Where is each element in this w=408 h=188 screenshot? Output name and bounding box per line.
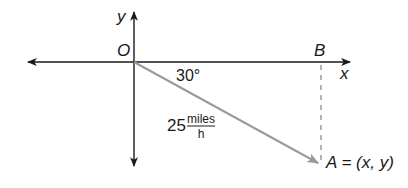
speed-unit-denominator: h xyxy=(198,127,205,141)
angle-label: 30° xyxy=(176,67,200,84)
origin-label: O xyxy=(117,41,130,60)
speed-unit-numerator: miles xyxy=(187,112,215,126)
y-axis-label: y xyxy=(116,7,127,26)
velocity-vector xyxy=(134,62,318,163)
coordinate-diagram: y O x B 30° 25 miles h A = (x, y) xyxy=(0,0,408,188)
x-axis-label: x xyxy=(339,64,349,83)
speed-magnitude: 25 xyxy=(167,116,186,135)
point-a-label: A = (x, y) xyxy=(325,153,394,172)
point-b-label: B xyxy=(314,41,325,60)
